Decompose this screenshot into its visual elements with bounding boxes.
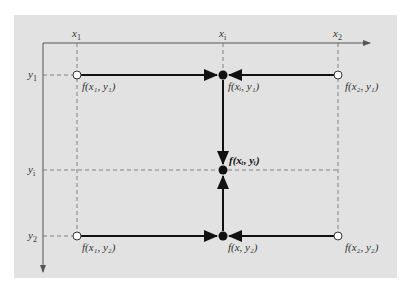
point-f-xi-yi (219, 166, 228, 175)
tick-label-y2: y2 (28, 230, 37, 244)
label-f-x-y2: f(x, y₂) (228, 242, 257, 253)
label-f-xi-y1: f(xᵢ, y₁) (228, 81, 259, 92)
label-f-x2-y1: f(x₂, y₁) (345, 81, 378, 92)
tick-label-xi: xi (219, 28, 226, 42)
label-f-xi-yi: f(xᵢ, yᵢ) (229, 155, 260, 166)
tick-label-x1: x1 (72, 28, 81, 42)
label-f-x1-y1: f(x₁, y₁) (82, 81, 115, 92)
label-f-x1-y2: f(x₁, y₂) (82, 242, 115, 253)
point-f-x1-y1 (73, 71, 81, 79)
point-f-x-y2 (219, 232, 228, 241)
point-f-x2-y2 (334, 232, 342, 240)
point-f-x1-y2 (73, 232, 81, 240)
tick-label-y1: y1 (28, 69, 37, 83)
dashed-guides (43, 43, 338, 236)
tick-label-yi: yi (28, 164, 35, 178)
point-f-xi-y1 (219, 71, 228, 80)
label-f-x2-y2: f(x₂, y₂) (345, 242, 378, 253)
point-f-x2-y1 (334, 71, 342, 79)
tick-label-x2: x2 (333, 28, 342, 42)
